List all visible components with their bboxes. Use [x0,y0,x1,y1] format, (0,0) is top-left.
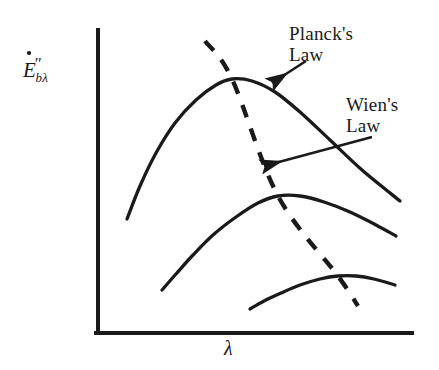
y-axis-label-base: E [23,58,36,83]
overdot-icon [27,51,31,55]
y-axis-label: E″bλ [23,54,48,86]
y-axis-label-stack: E″bλ [23,54,48,86]
planck-law-label: Planck's Law [289,23,353,66]
figure-container: Planck's Law Wien's Law E″bλ λ [0,0,439,370]
wien-law-label-line2: Law [346,115,398,136]
wien-law-label-line1: Wien's [346,94,398,115]
wien-law-label: Wien's Law [346,94,398,137]
x-axis-label: λ [224,337,233,360]
wien-law-arrow [264,137,372,166]
planck-curve-low-temperature [250,276,395,309]
figure-canvas [0,0,439,370]
planck-law-label-line1: Planck's [289,23,353,44]
y-axis-label-subscript: bλ [35,70,48,85]
y-axis-label-symbol: E [23,58,36,82]
planck-law-label-line2: Law [289,44,353,65]
